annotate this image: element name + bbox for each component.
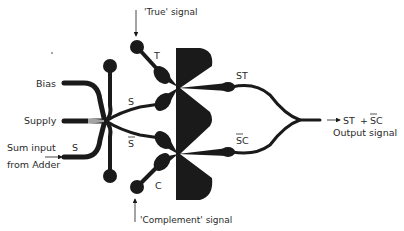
sum-control-port (103, 169, 117, 183)
c-label: C (155, 180, 162, 191)
bias-label: Bias (36, 78, 56, 89)
input-channels (64, 70, 160, 172)
output-expression: ST + SC (343, 114, 383, 126)
sum-input-label-2: from Adder (7, 159, 60, 170)
s-label: S (128, 96, 134, 107)
stray-dot (51, 52, 53, 54)
vent-block (176, 48, 212, 200)
st-output-jet (178, 82, 235, 92)
fluidic-circuit-diagram: 'True' signal 'Complement' signal Bias S… (0, 0, 404, 231)
supply-label: Supply (24, 115, 57, 126)
sc-bar-label: SC (236, 134, 249, 146)
st-label: ST (236, 70, 248, 81)
s-upper-lobe (151, 88, 178, 114)
svg-text:SC: SC (236, 135, 249, 146)
sum-input-s-label: S (72, 142, 78, 153)
t-label: T (153, 50, 160, 61)
output-signal-label: Output signal (333, 127, 397, 138)
sc-output-jet (178, 147, 235, 157)
sum-input-label-1: Sum input (7, 142, 56, 153)
svg-text:SC: SC (370, 115, 383, 126)
complement-input-port (130, 150, 178, 194)
complement-signal-label: 'Complement' signal (140, 215, 232, 225)
diagram-canvas: 'True' signal 'Complement' signal Bias S… (0, 0, 404, 231)
s-bar-lobe (151, 128, 178, 154)
true-signal-label: 'True' signal (144, 7, 198, 17)
svg-text:+: + (360, 115, 368, 126)
true-input-port (130, 40, 178, 87)
s-bar-label: S (128, 137, 135, 149)
bias-control-port (103, 59, 117, 73)
svg-text:S: S (128, 138, 134, 149)
svg-text:ST: ST (343, 115, 355, 126)
